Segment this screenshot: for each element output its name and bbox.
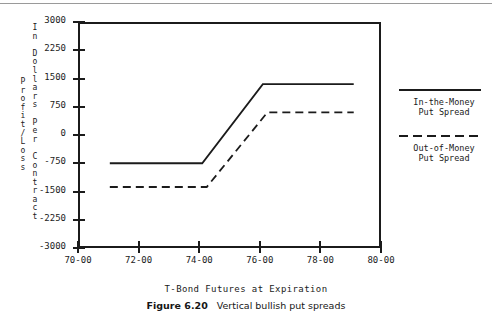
y-tick-label: 750 <box>50 100 66 111</box>
legend-entry: Out-of-Money Put Spread <box>398 130 490 163</box>
x-tick-label: 72-00 <box>125 255 152 266</box>
caption-text: Vertical bullish put spreads <box>217 300 346 311</box>
x-tick-label: 78-00 <box>307 255 334 266</box>
legend-entry: In-the-Money Put Spread <box>398 84 490 117</box>
series-lines <box>78 22 381 248</box>
legend: In-the-Money Put SpreadOut-of-Money Put … <box>398 84 490 176</box>
x-tick-label: 74-00 <box>186 255 213 266</box>
page-top-rule <box>0 3 492 4</box>
plot-area: 3000225015007500-750-1500-2250-3000 70-0… <box>78 22 381 248</box>
y-tick-label: -2250 <box>39 213 66 224</box>
y-tick-label: 1500 <box>44 72 66 83</box>
x-tick-label: 76-00 <box>246 255 273 266</box>
y-tick-label: -1500 <box>39 185 66 196</box>
legend-swatch <box>398 84 482 96</box>
legend-label: Out-of-Money Put Spread <box>398 143 490 163</box>
y-tick-label: 0 <box>61 128 66 139</box>
y-tick-label: -3000 <box>39 241 66 252</box>
caption-label: Figure 6.20 <box>147 300 208 311</box>
legend-swatch <box>398 130 482 142</box>
x-tick-label: 70-00 <box>64 255 91 266</box>
figure-page: P r o f i t / L o s s I n D o l l a r s … <box>0 0 492 321</box>
y-tick-label: 2250 <box>44 43 66 54</box>
y-tick-label: -750 <box>44 156 66 167</box>
y-tick-label: 3000 <box>44 15 66 26</box>
y-axis-title-outer: P r o f i t / L o s s <box>18 78 28 173</box>
x-axis-title: T-Bond Futures at Expiration <box>0 284 492 294</box>
series-line <box>110 84 354 163</box>
legend-label: In-the-Money Put Spread <box>398 97 490 117</box>
x-tick-label: 80-00 <box>367 255 394 266</box>
figure-caption: Figure 6.20Vertical bullish put spreads <box>0 300 492 311</box>
